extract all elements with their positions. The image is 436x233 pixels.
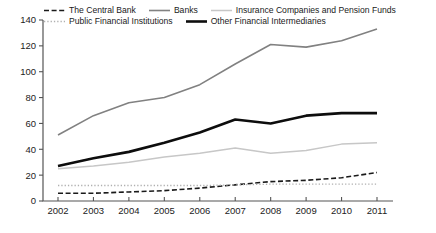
legend-swatch-line-icon	[44, 6, 65, 15]
legend-item: The Central Bank	[44, 5, 136, 15]
line-chart: 0204060801001201402002200320042005200620…	[0, 0, 436, 233]
y-tick-label: 60	[25, 118, 36, 129]
legend-row: Public Financial InstitutionsOther Finan…	[44, 16, 396, 26]
y-tick-label: 0	[31, 195, 36, 206]
x-tick-label: 2004	[118, 205, 139, 216]
legend-item: Banks	[149, 5, 198, 15]
legend-swatch-line-icon	[44, 17, 65, 26]
axis-spines	[43, 20, 393, 201]
x-tick-label: 2003	[83, 205, 104, 216]
chart-legend: The Central BankBanksInsurance Companies…	[44, 5, 396, 26]
series-line-1	[58, 29, 377, 135]
plot-area: 0204060801001201402002200320042005200620…	[0, 0, 436, 233]
series-line-4	[58, 113, 377, 166]
y-tick-label: 20	[25, 170, 36, 181]
y-tick-label: 140	[20, 14, 36, 25]
x-tick-label: 2002	[47, 205, 68, 216]
legend-label: Public Financial Institutions	[69, 16, 173, 26]
x-tick-label: 2011	[367, 205, 387, 216]
legend-label: The Central Bank	[69, 5, 136, 15]
legend-row: The Central BankBanksInsurance Companies…	[44, 5, 396, 15]
legend-label: Insurance Companies and Pension Funds	[236, 5, 396, 15]
legend-item: Insurance Companies and Pension Funds	[211, 5, 396, 15]
legend-swatch-line-icon	[149, 6, 170, 15]
legend-swatch-line-icon	[211, 6, 232, 15]
x-tick-label: 2010	[331, 205, 352, 216]
x-tick-label: 2008	[260, 205, 281, 216]
series-line-3	[58, 184, 377, 185]
x-tick-label: 2009	[296, 205, 317, 216]
legend-swatch-line-icon	[186, 17, 207, 26]
y-tick-label: 80	[25, 92, 36, 103]
x-tick-label: 2006	[189, 205, 210, 216]
y-tick-label: 120	[20, 40, 36, 51]
legend-label: Banks	[174, 5, 198, 15]
legend-item: Public Financial Institutions	[44, 16, 173, 26]
series-line-0	[58, 173, 377, 194]
legend-item: Other Financial Intermediaries	[186, 16, 326, 26]
y-tick-label: 100	[20, 66, 36, 77]
legend-label: Other Financial Intermediaries	[211, 16, 326, 26]
x-tick-label: 2005	[154, 205, 175, 216]
y-tick-label: 40	[25, 144, 36, 155]
x-tick-label: 2007	[225, 205, 246, 216]
